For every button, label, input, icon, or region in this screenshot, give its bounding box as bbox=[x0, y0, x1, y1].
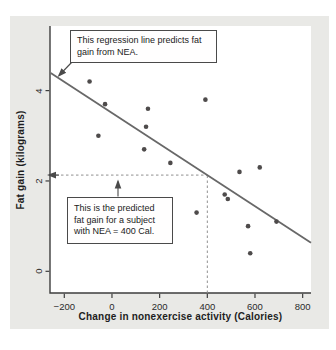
prediction-callout-text: This is the predicted fat gain for a sub… bbox=[74, 203, 155, 236]
x-tick-label: 0 bbox=[109, 301, 114, 312]
data-point bbox=[96, 133, 101, 138]
data-point bbox=[226, 197, 231, 202]
data-point bbox=[87, 79, 92, 84]
x-tick-label: 800 bbox=[295, 301, 311, 312]
axes-frame bbox=[50, 26, 311, 293]
y-tick-label: 0 bbox=[33, 269, 44, 274]
data-point bbox=[257, 165, 262, 170]
data-point bbox=[274, 219, 279, 224]
y-tick-label: 4 bbox=[33, 88, 44, 93]
data-point bbox=[203, 97, 208, 102]
data-point bbox=[103, 102, 108, 107]
data-point bbox=[168, 161, 173, 166]
x-tick-label: −200 bbox=[54, 301, 75, 312]
data-point bbox=[146, 106, 151, 111]
figure-page: Fat gain (kilograms) Change in nonexerci… bbox=[0, 0, 336, 350]
y-tick-label: 2 bbox=[33, 178, 44, 183]
regression-callout-box: This regression line predicts fat gain f… bbox=[70, 30, 217, 63]
data-point bbox=[194, 210, 199, 215]
regression-callout-text: This regression line predicts fat gain f… bbox=[77, 35, 202, 57]
x-tick-label: 600 bbox=[247, 301, 263, 312]
data-point bbox=[237, 170, 242, 175]
data-point bbox=[246, 224, 251, 229]
data-point bbox=[142, 147, 147, 152]
x-axis-title: Change in nonexercise activity (Calories… bbox=[50, 311, 311, 322]
data-point bbox=[144, 124, 149, 129]
regression-callout-leader bbox=[59, 62, 73, 76]
x-tick-label: 400 bbox=[199, 301, 215, 312]
data-point bbox=[222, 192, 227, 197]
y-axis-title: Fat gain (kilograms) bbox=[15, 110, 26, 209]
data-point bbox=[248, 251, 253, 256]
x-tick-label: 200 bbox=[152, 301, 168, 312]
prediction-callout-box: This is the predicted fat gain for a sub… bbox=[67, 197, 173, 244]
